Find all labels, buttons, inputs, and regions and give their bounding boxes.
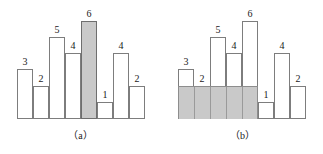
panel-b-bar-label-5: 6 xyxy=(243,9,257,19)
panel-a-bar-label-7: 4 xyxy=(114,41,128,51)
panel-b-bar-label-2: 2 xyxy=(195,74,209,84)
figure-container: 3 2 5 4 6 1 4 2 （a） xyxy=(0,0,323,154)
panel-b-plot: 3 2 5 4 6 1 4 2 xyxy=(162,0,323,128)
panel-b-bar-label-4: 4 xyxy=(227,41,241,51)
panel-a-bar-label-1: 3 xyxy=(18,57,32,67)
panel-a-bar-8 xyxy=(129,86,145,119)
panel-b-water-divider-1 xyxy=(194,87,195,119)
panel-b-caption: （b） xyxy=(162,130,323,142)
panel-a-bar-4 xyxy=(65,53,81,119)
panel-a-caption: （a） xyxy=(0,130,161,142)
panel-a-bar-6 xyxy=(97,102,113,119)
panel-b-bar-label-3: 5 xyxy=(211,25,225,35)
panel-a-bar-label-2: 2 xyxy=(34,74,48,84)
panel-a-bar-label-8: 2 xyxy=(130,74,144,84)
panel-a-bar-label-4: 4 xyxy=(66,41,80,51)
panel-b-bar-7 xyxy=(274,53,290,119)
panel-a: 3 2 5 4 6 1 4 2 （a） xyxy=(0,0,161,154)
panel-b-bar-label-7: 4 xyxy=(275,41,289,51)
panel-a-bar-label-6: 1 xyxy=(98,90,112,100)
panel-a-bar-3 xyxy=(49,37,65,119)
panel-b-water-divider-2 xyxy=(210,87,211,119)
panel-a-bar-5 xyxy=(81,21,97,119)
panel-b-bar-label-1: 3 xyxy=(179,57,193,67)
panel-a-bar-label-3: 5 xyxy=(50,25,64,35)
panel-b-water-fill xyxy=(178,86,258,119)
panel-a-bar-1 xyxy=(17,69,33,119)
panel-b: 3 2 5 4 6 1 4 2 （b） xyxy=(162,0,323,154)
panel-b-bar-label-6: 1 xyxy=(259,90,273,100)
panel-a-bar-2 xyxy=(33,86,49,119)
panel-b-bar-8 xyxy=(290,86,306,119)
panel-a-bar-label-5: 6 xyxy=(82,9,96,19)
panel-b-bar-6 xyxy=(258,102,274,119)
panel-b-water-divider-4 xyxy=(242,87,243,119)
panel-b-water-divider-3 xyxy=(226,87,227,119)
panel-a-plot: 3 2 5 4 6 1 4 2 xyxy=(0,0,161,128)
panel-a-bar-7 xyxy=(113,53,129,119)
panel-b-bar-label-8: 2 xyxy=(291,74,305,84)
